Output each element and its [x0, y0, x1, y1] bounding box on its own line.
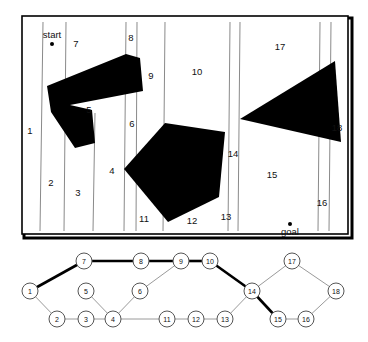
graph-node-label-5: 5: [84, 288, 88, 295]
graph-nodes: 123456789101112131415161718: [22, 253, 344, 327]
graph-node-18[interactable]: 18: [328, 283, 344, 299]
map-cell-label-15: 15: [267, 169, 278, 180]
graph-node-label-16: 16: [302, 316, 310, 323]
map-cell-label-4: 4: [109, 165, 114, 176]
graph-node-6[interactable]: 6: [132, 283, 148, 299]
graph-node-3[interactable]: 3: [78, 311, 94, 327]
map-cell-label-12: 12: [187, 215, 198, 226]
graph-edge-1-7: [30, 261, 84, 291]
map-cell-label-16: 16: [317, 197, 328, 208]
graph-node-label-13: 13: [221, 316, 229, 323]
start-marker-dot: [50, 42, 54, 46]
map-cell-label-18: 18: [332, 122, 343, 133]
graph-node-5[interactable]: 5: [78, 283, 94, 299]
map-cell-label-8: 8: [128, 32, 133, 43]
map-cell-label-9: 9: [148, 70, 153, 81]
graph-node-label-15: 15: [274, 316, 282, 323]
graph-node-label-9: 9: [179, 258, 183, 265]
graph-node-label-4: 4: [111, 316, 115, 323]
graph-node-label-1: 1: [28, 288, 32, 295]
graph-node-label-7: 7: [82, 258, 86, 265]
map-cell-label-17: 17: [275, 41, 286, 52]
map-cell-label-5: 5: [86, 104, 91, 115]
graph-node-9[interactable]: 9: [173, 253, 189, 269]
map-cell-label-11: 11: [139, 213, 149, 224]
map-cell-label-6: 6: [129, 118, 134, 129]
map-cell-label-7: 7: [73, 38, 78, 49]
graph-node-1[interactable]: 1: [22, 283, 38, 299]
graph-node-13[interactable]: 13: [217, 311, 233, 327]
graph-node-label-11: 11: [163, 316, 170, 323]
map-cell-label-13: 13: [221, 211, 232, 222]
figure-root: 123456789101112131415161718 startgoal 12…: [0, 0, 368, 342]
graph-panel: 123456789101112131415161718: [22, 253, 344, 327]
graph-node-11[interactable]: 11: [159, 311, 175, 327]
map-panel: 123456789101112131415161718 startgoal: [22, 16, 352, 238]
graph-node-label-18: 18: [332, 288, 340, 295]
figure-svg: 123456789101112131415161718 startgoal 12…: [0, 0, 368, 342]
graph-node-8[interactable]: 8: [133, 253, 149, 269]
graph-node-4[interactable]: 4: [105, 311, 121, 327]
map-cell-label-3: 3: [75, 187, 80, 198]
map-cell-label-1: 1: [27, 125, 32, 136]
map-cell-label-10: 10: [192, 66, 203, 77]
graph-edges: [30, 261, 336, 319]
graph-node-15[interactable]: 15: [270, 311, 286, 327]
graph-node-16[interactable]: 16: [298, 311, 314, 327]
map-cell-label-14: 14: [228, 148, 239, 159]
graph-node-label-14: 14: [248, 288, 256, 295]
graph-node-17[interactable]: 17: [284, 253, 300, 269]
graph-node-label-17: 17: [288, 258, 296, 265]
goal-label: goal: [281, 226, 299, 237]
graph-node-10[interactable]: 10: [202, 253, 218, 269]
graph-node-label-2: 2: [55, 316, 59, 323]
graph-node-7[interactable]: 7: [76, 253, 92, 269]
graph-node-label-8: 8: [139, 258, 143, 265]
start-label: start: [43, 29, 62, 40]
graph-node-12[interactable]: 12: [188, 311, 204, 327]
graph-node-2[interactable]: 2: [49, 311, 65, 327]
graph-node-label-10: 10: [206, 258, 214, 265]
graph-node-label-3: 3: [84, 316, 88, 323]
graph-node-label-12: 12: [192, 316, 200, 323]
map-cell-label-2: 2: [48, 177, 53, 188]
graph-node-label-6: 6: [138, 288, 142, 295]
graph-node-14[interactable]: 14: [244, 283, 260, 299]
